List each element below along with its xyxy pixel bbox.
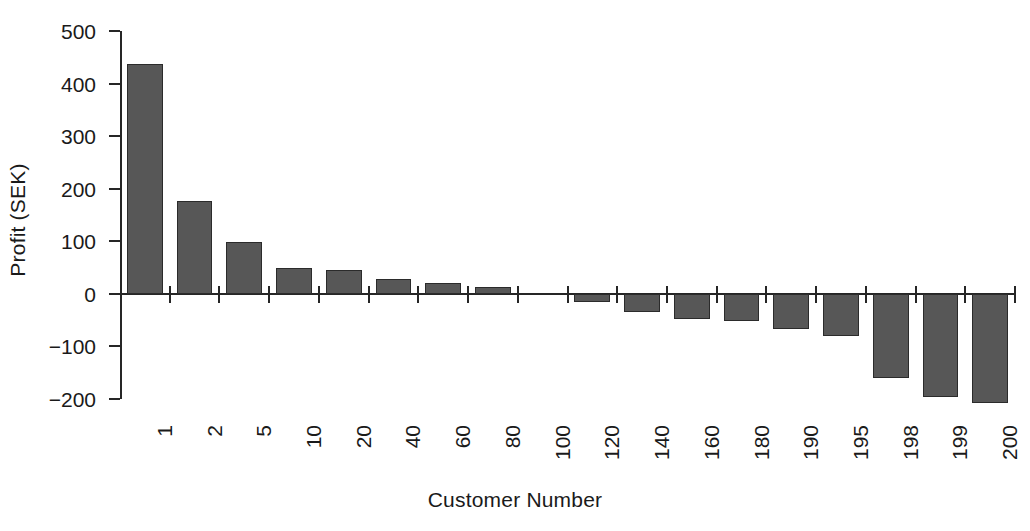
x-tick-label: 198 (900, 425, 921, 460)
y-tick-label: −200 (10, 389, 96, 410)
x-tick-label: 195 (850, 425, 871, 460)
bar (873, 294, 909, 379)
y-axis-spine (120, 31, 122, 399)
bar (177, 201, 213, 294)
y-tick-mark (109, 398, 120, 400)
y-tick-label: 200 (10, 178, 96, 199)
x-tick-label: 140 (651, 425, 672, 460)
x-tick-label: 200 (999, 425, 1020, 460)
bar (773, 294, 809, 329)
y-tick-mark (109, 135, 120, 137)
x-tick-label: 100 (552, 425, 573, 460)
bar (475, 287, 511, 294)
x-tick-mark (368, 286, 370, 303)
y-tick-label: 0 (10, 283, 96, 304)
x-tick-mark (815, 286, 817, 303)
x-tick-label: 40 (402, 425, 423, 448)
x-tick-label: 20 (353, 425, 374, 448)
x-tick-label: 120 (601, 425, 622, 460)
x-tick-mark (915, 286, 917, 303)
y-tick-mark (109, 83, 120, 85)
x-tick-mark (865, 286, 867, 303)
x-tick-label: 5 (253, 425, 274, 437)
y-tick-mark (109, 30, 120, 32)
y-tick-mark (109, 240, 120, 242)
x-tick-label: 199 (949, 425, 970, 460)
x-tick-mark (666, 286, 668, 303)
bar (127, 64, 163, 294)
x-tick-mark (716, 286, 718, 303)
chart-figure: Profit (SEK) 5004003002001000−100−200 12… (0, 0, 1030, 531)
bar (376, 279, 412, 294)
bar (624, 294, 660, 312)
bar (674, 294, 710, 319)
y-tick-label: 500 (10, 21, 96, 42)
x-tick-mark (318, 286, 320, 303)
bar (326, 270, 362, 294)
x-tick-label: 1 (154, 425, 175, 437)
x-tick-label: 2 (204, 425, 225, 437)
x-tick-mark (169, 286, 171, 303)
y-tick-label: −100 (10, 336, 96, 357)
bar (923, 294, 959, 397)
y-tick-mark (109, 293, 120, 295)
x-axis-title: Customer Number (0, 488, 1030, 512)
x-axis-tick-labels: 1251020406080100120140160180190195198199… (120, 425, 1015, 485)
x-tick-label: 180 (751, 425, 772, 460)
y-tick-mark (109, 345, 120, 347)
bar (276, 268, 312, 294)
x-tick-label: 80 (502, 425, 523, 448)
bar (425, 283, 461, 294)
x-tick-label: 190 (800, 425, 821, 460)
bar (226, 242, 262, 294)
bar (724, 294, 760, 321)
bar (823, 294, 859, 336)
x-tick-mark (964, 286, 966, 303)
bar (574, 294, 610, 302)
x-tick-mark (517, 286, 519, 303)
plot-area (120, 25, 1015, 420)
x-tick-mark (1014, 286, 1016, 303)
y-tick-label: 300 (10, 126, 96, 147)
x-tick-mark (467, 286, 469, 303)
x-tick-mark (567, 286, 569, 303)
bar (972, 294, 1008, 403)
y-tick-mark (109, 188, 120, 190)
x-tick-label: 160 (701, 425, 722, 460)
x-tick-label: 10 (303, 425, 324, 448)
x-tick-mark (417, 286, 419, 303)
x-tick-mark (268, 286, 270, 303)
x-tick-mark (616, 286, 618, 303)
y-tick-label: 400 (10, 73, 96, 94)
x-tick-mark (218, 286, 220, 303)
x-tick-mark (765, 286, 767, 303)
x-tick-label: 60 (452, 425, 473, 448)
y-tick-label: 100 (10, 231, 96, 252)
y-axis-tick-labels: 5004003002001000−100−200 (10, 0, 96, 531)
